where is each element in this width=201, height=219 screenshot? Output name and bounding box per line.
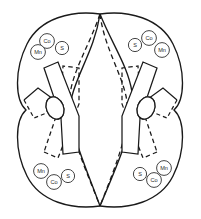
element-label-badge: Mn xyxy=(34,164,49,179)
element-label-text: Co xyxy=(51,179,58,185)
element-label-badge: Co xyxy=(147,173,162,188)
element-label-badge: Mn xyxy=(157,161,172,176)
element-label-badge: Co xyxy=(47,175,62,190)
element-label-text: Mn xyxy=(158,47,166,53)
element-label-text: Mn xyxy=(37,168,45,174)
element-label-badge: Co xyxy=(142,31,157,46)
element-label-text: S xyxy=(66,173,70,179)
central-crossing-curves-group xyxy=(69,14,133,206)
element-label-badge: Mn xyxy=(31,45,46,60)
element-label-badge: S xyxy=(133,167,146,180)
element-labels-top-left: Co S Mn xyxy=(31,34,69,60)
element-label-text: S xyxy=(133,42,137,48)
element-label-text: S xyxy=(138,171,142,177)
element-label-badge: S xyxy=(61,169,74,182)
diagram-canvas: Co S Mn S Co Mn xyxy=(0,0,201,219)
element-labels-bottom-left: Mn Co S xyxy=(34,164,75,190)
element-label-text: Co xyxy=(44,38,51,44)
element-label-text: S xyxy=(60,45,64,51)
element-label-badge: S xyxy=(128,38,141,51)
element-label-badge: S xyxy=(55,41,68,54)
element-label-text: Mn xyxy=(160,165,168,171)
element-labels-top-right: S Co Mn xyxy=(128,31,169,58)
element-label-text: Co xyxy=(151,177,158,183)
element-labels-bottom-right: S Co Mn xyxy=(133,161,171,188)
element-label-text: Co xyxy=(146,35,153,41)
element-label-text: Mn xyxy=(34,49,42,55)
element-label-badge: Mn xyxy=(155,43,170,58)
mineral-assemblage-diagram: Co S Mn S Co Mn xyxy=(0,0,201,219)
